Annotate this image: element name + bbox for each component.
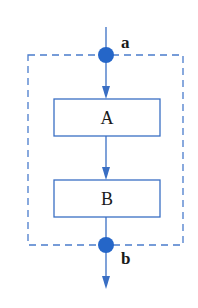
node-b (98, 237, 114, 253)
node-b-label: b (121, 249, 130, 268)
box-A-label: A (101, 108, 114, 128)
arrowhead-icon (102, 276, 110, 289)
box-B-label: B (101, 189, 113, 209)
arrowhead-icon (102, 86, 110, 99)
node-a (98, 47, 114, 63)
sequence-diagram: A B a b (0, 0, 198, 308)
arrowhead-icon (102, 167, 110, 180)
node-a-label: a (121, 33, 130, 52)
